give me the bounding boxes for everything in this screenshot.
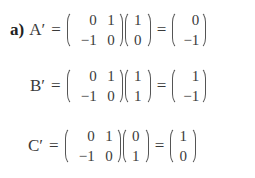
matrix-cell: 0 [73,127,95,145]
equals-sign: = [49,136,59,156]
lhs-b-prime: B′ [30,76,45,96]
equals-sign: = [51,20,61,40]
equation-a: a) A′ = 0 1 −1 0 1 0 = 0 −1 [10,8,206,52]
result-cell: −1 [179,87,199,105]
lhs-a-prime: A′ [29,20,45,40]
vector-cell: 0 [132,31,144,49]
input-vector: 1 0 [125,10,151,50]
matrix-cell: 1 [97,67,115,85]
equation-c: C′ = 0 1 −1 0 0 1 = 1 0 [28,124,196,168]
equals-sign: = [155,136,165,156]
vector-cell: 1 [132,11,144,29]
rotation-matrix: 0 1 −1 0 [65,126,121,166]
equals-sign: = [157,76,167,96]
input-vector: 0 1 [123,126,149,166]
matrix-cell: 1 [97,11,115,29]
result-vector: 1 −1 [172,66,206,106]
rotation-matrix: 0 1 −1 0 [67,10,123,50]
matrix-cell: 0 [75,67,97,85]
matrix-cell: 0 [97,31,115,49]
vector-cell: 0 [130,127,142,145]
matrix-cell: −1 [73,147,95,165]
result-cell: −1 [179,31,199,49]
matrix-cell: 0 [75,11,97,29]
rotation-matrix: 0 1 −1 0 [67,66,123,106]
equals-sign: = [51,76,61,96]
lhs-c-prime: C′ [28,136,43,156]
part-label: a) [10,20,24,40]
matrix-cell: −1 [75,87,97,105]
matrix-cell: 0 [97,87,115,105]
result-cell: 1 [179,67,199,85]
equals-sign: = [157,20,167,40]
result-vector: 1 0 [170,126,196,166]
result-cell: 0 [177,147,189,165]
input-vector: 1 1 [125,66,151,106]
result-vector: 0 −1 [172,10,206,50]
vector-cell: 1 [132,67,144,85]
matrix-cell: −1 [75,31,97,49]
vector-cell: 1 [132,87,144,105]
vector-cell: 1 [130,147,142,165]
result-cell: 1 [177,127,189,145]
matrix-cell: 1 [95,127,113,145]
result-cell: 0 [179,11,199,29]
equation-b: B′ = 0 1 −1 0 1 1 = 1 −1 [30,64,206,108]
matrix-cell: 0 [95,147,113,165]
